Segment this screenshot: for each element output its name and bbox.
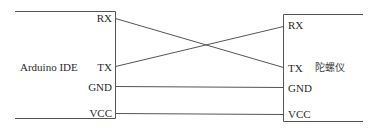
left-pin-gnd: GND [72,81,112,93]
left-device-name: Arduino IDE [20,61,78,73]
right-pin-gnd: GND [288,82,312,94]
wires [116,19,284,115]
left-pin-tx: TX [72,61,112,73]
right-pin-vcc: VCC [288,108,311,120]
wire-gnd-to-gnd [116,87,284,88]
wire-vcc-to-vcc [116,114,284,115]
right-pin-tx: TX [288,62,303,74]
right-pin-rx: RX [288,19,303,31]
right-device-name: 陀螺仪 [315,62,345,74]
left-pin-rx: RX [72,12,112,24]
left-pin-vcc: VCC [72,107,112,119]
